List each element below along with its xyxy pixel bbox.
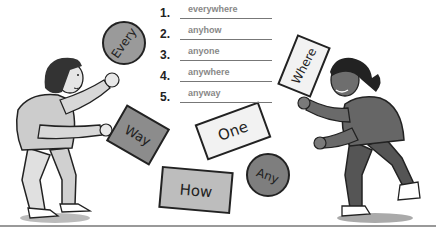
card-where: Where bbox=[278, 36, 329, 97]
answer-line bbox=[180, 60, 272, 61]
answer-line bbox=[180, 81, 272, 82]
answer-text: anywhere bbox=[188, 67, 230, 77]
card-every: Every bbox=[103, 22, 145, 64]
answer-row-1: 1. everywhere bbox=[160, 2, 272, 23]
answer-line bbox=[180, 102, 272, 103]
card-one: One bbox=[196, 103, 270, 159]
answer-row-3: 3. anyone bbox=[160, 44, 272, 65]
answer-row-5: 5. anyway bbox=[160, 86, 272, 107]
answer-number: 1. bbox=[160, 6, 170, 20]
answer-text: everywhere bbox=[188, 4, 238, 14]
answer-text: anyway bbox=[188, 88, 221, 98]
card-any: Any bbox=[247, 154, 289, 196]
answer-line bbox=[180, 18, 272, 19]
card-how-label: How bbox=[179, 181, 213, 202]
girl-left bbox=[17, 58, 119, 223]
card-how: How bbox=[159, 167, 232, 213]
answer-row-4: 4. anywhere bbox=[160, 65, 272, 86]
answer-line bbox=[180, 39, 272, 40]
answer-text: anyone bbox=[188, 46, 220, 56]
answer-number: 5. bbox=[160, 90, 170, 104]
card-way: Way bbox=[107, 106, 169, 165]
answer-text: anyhow bbox=[188, 25, 222, 35]
answer-row-2: 2. anyhow bbox=[160, 23, 272, 44]
answer-number: 2. bbox=[160, 27, 170, 41]
answer-number: 4. bbox=[160, 69, 170, 83]
answer-list: 1. everywhere 2. anyhow 3. anyone 4. any… bbox=[160, 2, 272, 107]
answer-number: 3. bbox=[160, 48, 170, 62]
